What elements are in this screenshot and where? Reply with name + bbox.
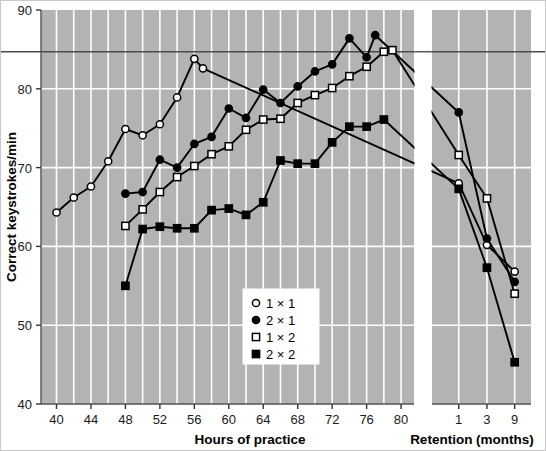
data-point (208, 151, 215, 158)
x-axis-tick-label: 80 (394, 412, 408, 427)
data-point (380, 116, 387, 123)
data-point (225, 143, 232, 150)
data-point (174, 173, 181, 180)
data-point (277, 99, 284, 106)
x-axis-tick-label: 68 (290, 412, 304, 427)
data-point (225, 205, 232, 212)
data-point (156, 156, 163, 163)
data-point (242, 126, 249, 133)
legend-label-4: 2 × 2 (266, 347, 295, 362)
data-point (191, 162, 198, 169)
axis-break-gap (415, 9, 432, 405)
data-point (363, 123, 370, 130)
data-point (156, 121, 163, 128)
legend-marker-4 (252, 350, 259, 357)
y-axis-title: Correct keystrokes/min (4, 132, 19, 282)
data-point (346, 123, 353, 130)
data-point (311, 68, 318, 75)
data-point (208, 207, 215, 214)
data-point (208, 133, 215, 140)
x-axis-tick-label: 76 (359, 412, 373, 427)
plot-background-retention (432, 10, 531, 404)
data-point (455, 185, 462, 192)
data-point (372, 32, 379, 39)
data-point (294, 160, 301, 167)
data-point (380, 48, 387, 55)
data-point (122, 125, 129, 132)
data-point (277, 115, 284, 122)
data-point (260, 86, 267, 93)
data-point (139, 225, 146, 232)
y-axis-tick-label: 80 (18, 82, 32, 97)
data-point (70, 194, 77, 201)
x-axis-tick-label: 48 (118, 412, 132, 427)
x-axis-tick-label: 64 (256, 412, 270, 427)
data-point (87, 183, 94, 190)
x-axis-tick-label: 1 (455, 412, 462, 427)
data-point (174, 225, 181, 232)
y-axis-tick-label: 60 (18, 239, 32, 254)
data-point (294, 83, 301, 90)
data-point (174, 164, 181, 171)
x-axis-tick-label: 3 (483, 412, 490, 427)
data-point (311, 160, 318, 167)
data-point (122, 222, 129, 229)
legend-label-1: 1 × 1 (266, 296, 295, 311)
y-axis-tick-label: 70 (18, 161, 32, 176)
data-point (455, 151, 462, 158)
data-point (329, 139, 336, 146)
legend-marker-3 (252, 333, 259, 340)
data-point (260, 199, 267, 206)
data-point (483, 264, 490, 271)
data-point (191, 140, 198, 147)
data-point (483, 235, 490, 242)
data-point (139, 206, 146, 213)
data-point (242, 211, 249, 218)
x-axis-tick-label: 40 (49, 412, 63, 427)
data-point (122, 282, 129, 289)
legend: 1 × 12 × 11 × 22 × 2 (243, 289, 319, 364)
x-axis-tick-label: 56 (187, 412, 201, 427)
x-axis-tick-label: 44 (84, 412, 98, 427)
data-point (53, 209, 60, 216)
data-point (483, 195, 490, 202)
data-point (156, 223, 163, 230)
data-point (191, 225, 198, 232)
data-point (225, 105, 232, 112)
data-point (174, 94, 181, 101)
y-axis-tick-label: 90 (18, 3, 32, 18)
data-point (139, 132, 146, 139)
legend-label-3: 1 × 2 (266, 330, 295, 345)
data-point (139, 188, 146, 195)
y-axis-tick-label: 40 (18, 397, 32, 412)
data-point (346, 73, 353, 80)
x-axis-title-practice: Hours of practice (194, 432, 306, 447)
x-axis-tick-label: 72 (325, 412, 339, 427)
x-axis-tick-label: 60 (222, 412, 236, 427)
data-point (511, 290, 518, 297)
data-point (363, 63, 370, 70)
data-point (511, 268, 518, 275)
data-point (294, 99, 301, 106)
data-point (105, 158, 112, 165)
legend-label-2: 2 × 1 (266, 313, 295, 328)
x-axis-tick-label: 9 (511, 412, 518, 427)
x-axis-title-retention: Retention (months) (410, 432, 534, 447)
data-point (329, 61, 336, 68)
data-point (311, 92, 318, 99)
y-axis-tick-label: 50 (18, 318, 32, 333)
data-point (363, 54, 370, 61)
data-point (260, 116, 267, 123)
data-point (122, 190, 129, 197)
data-point (156, 188, 163, 195)
data-point (346, 35, 353, 42)
data-point (242, 114, 249, 121)
line-chart: 4050607080904044485256606468727680139Cor… (0, 0, 546, 451)
data-point (511, 359, 518, 366)
chart-container: 4050607080904044485256606468727680139Cor… (0, 0, 546, 451)
data-point (455, 109, 462, 116)
legend-marker-1 (252, 299, 259, 306)
legend-marker-2 (252, 316, 259, 323)
data-point (199, 65, 206, 72)
x-axis-tick-label: 52 (153, 412, 167, 427)
